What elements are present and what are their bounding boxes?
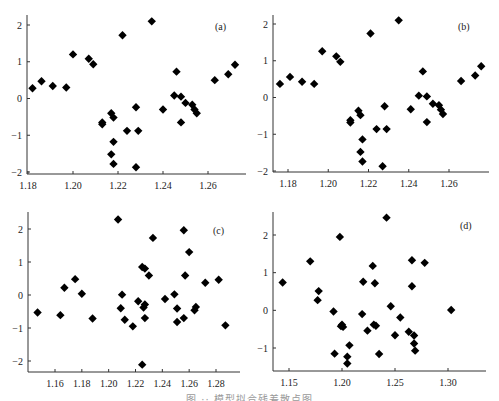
data-point <box>415 91 423 99</box>
y-tick-label: 0 <box>263 305 268 316</box>
data-point <box>149 234 157 242</box>
data-point <box>286 73 294 81</box>
y-tick-label: 1 <box>18 257 23 268</box>
data-point <box>185 248 193 256</box>
data-point <box>88 314 96 322</box>
data-point <box>276 80 284 88</box>
data-point <box>366 29 374 37</box>
y-tick-label: 0 <box>18 290 23 301</box>
data-point <box>28 84 36 92</box>
data-point <box>378 162 386 170</box>
data-point <box>49 82 57 90</box>
y-tick-label: 2 <box>263 19 268 30</box>
y-tick-label: −1 <box>257 343 268 354</box>
scatter-figure: 210−1−21.181.201.221.241.26(a) 210−1−21.… <box>0 0 499 401</box>
data-point <box>429 100 437 108</box>
data-point <box>181 271 189 279</box>
panel-label: (b) <box>458 21 470 33</box>
data-point <box>177 118 185 126</box>
x-tick-label: 1.24 <box>400 178 418 189</box>
data-point <box>109 160 117 168</box>
panel-d: 210−11.151.201.251.30(d) <box>257 212 486 388</box>
data-point <box>60 284 68 292</box>
x-tick-label: 1.22 <box>109 180 127 191</box>
data-point <box>132 103 140 111</box>
data-point <box>358 135 366 143</box>
data-point <box>363 326 371 334</box>
data-point <box>410 339 418 347</box>
x-tick-label: 1.26 <box>440 178 458 189</box>
data-point <box>181 99 189 107</box>
data-point <box>359 278 367 286</box>
x-tick-label: 1.24 <box>154 378 172 389</box>
x-tick-label: 1.25 <box>386 377 404 388</box>
data-point <box>109 138 117 146</box>
x-tick-label: 1.20 <box>320 178 338 189</box>
x-tick-label: 1.18 <box>73 378 91 389</box>
x-tick-label: 1.30 <box>439 377 457 388</box>
data-point <box>224 70 232 78</box>
data-point <box>394 16 402 24</box>
data-point <box>201 279 209 287</box>
data-point <box>371 279 379 287</box>
data-point <box>172 67 180 75</box>
data-point <box>231 60 239 68</box>
panel-label: (c) <box>213 225 224 237</box>
data-point <box>419 67 427 75</box>
x-tick-label: 1.18 <box>279 178 297 189</box>
figure-caption: 图 ·· 模型拟合残差散点图 <box>0 393 499 401</box>
data-point <box>345 341 353 349</box>
data-point <box>211 76 219 84</box>
data-point <box>170 91 178 99</box>
data-point <box>314 287 322 295</box>
data-point <box>318 47 326 55</box>
data-point <box>180 226 188 234</box>
data-point <box>138 360 146 368</box>
data-point <box>420 259 428 267</box>
data-point <box>117 304 125 312</box>
panel-b: 210−1−21.181.201.221.241.26(b) <box>257 15 489 189</box>
data-point <box>358 310 366 318</box>
x-tick-label: 1.26 <box>180 378 198 389</box>
data-point <box>170 290 178 298</box>
data-point <box>123 127 131 135</box>
data-point <box>372 125 380 133</box>
y-tick-label: −2 <box>11 167 22 178</box>
data-point <box>173 318 181 326</box>
y-tick-label: −2 <box>12 356 23 367</box>
data-point <box>173 304 181 312</box>
data-point <box>298 77 306 85</box>
x-tick-label: 1.20 <box>64 180 82 191</box>
data-point <box>141 314 149 322</box>
x-tick-label: 1.15 <box>280 377 298 388</box>
data-point <box>148 17 156 25</box>
x-tick-label: 1.18 <box>19 180 37 191</box>
data-point <box>214 276 222 284</box>
x-tick-label: 1.28 <box>207 378 225 389</box>
x-tick-label: 1.26 <box>199 180 217 191</box>
data-point <box>37 77 45 85</box>
data-point <box>129 322 137 330</box>
y-tick-label: 0 <box>263 92 268 103</box>
data-point <box>177 92 185 100</box>
data-point <box>356 148 364 156</box>
data-point <box>457 77 465 85</box>
data-point <box>330 349 338 357</box>
x-tick-label: 1.22 <box>360 178 378 189</box>
x-tick-label: 1.22 <box>127 378 145 389</box>
data-point <box>411 346 419 354</box>
y-tick-label: −1 <box>257 129 268 140</box>
data-point <box>69 50 77 58</box>
data-point <box>391 331 399 339</box>
data-point <box>358 157 366 165</box>
data-point <box>121 316 129 324</box>
data-point <box>161 295 169 303</box>
data-point <box>134 127 142 135</box>
data-point <box>221 321 229 329</box>
panel-c: 210−1−21.161.181.201.221.241.261.28(c) <box>12 212 240 389</box>
data-point <box>380 102 388 110</box>
data-point <box>71 275 79 283</box>
data-point <box>180 314 188 322</box>
x-tick-label: 1.24 <box>154 180 172 191</box>
data-point <box>118 31 126 39</box>
